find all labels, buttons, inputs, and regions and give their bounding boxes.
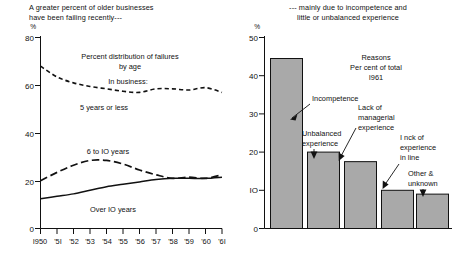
left-xtick-53: '53 [85, 237, 95, 246]
right-ytick-40: 40 [249, 72, 258, 81]
bar-annotation-managerial-1: Lack of [358, 103, 383, 112]
left-chart-panel: A greater percent of older businesses ha… [0, 0, 230, 257]
left-ytick-60: 60 [25, 82, 34, 91]
bar-annotation-incompetence: Incompetence [312, 94, 358, 103]
left-ytick-80: 80 [25, 34, 34, 43]
bar-2 [345, 162, 377, 229]
right-inner-title-line2: Per cent of total [350, 63, 402, 72]
bar-annotation-inline-1: I nck of [400, 133, 425, 142]
left-x-ticks [41, 229, 223, 235]
left-xtick-57: '57 [151, 237, 161, 246]
left-percent-symbol: % [30, 23, 36, 30]
left-xtick-52: '52 [69, 237, 79, 246]
left-line-chart-svg: % 80 60 40 20 0 I950 [0, 0, 230, 257]
series-over-10-years [41, 177, 223, 198]
bar-1 [308, 152, 340, 228]
left-xtick-60: '60 [201, 237, 211, 246]
right-chart-panel: --- mainly due to incompetence and littl… [224, 0, 454, 257]
right-inner-title-line3: I961 [369, 73, 383, 82]
left-ytick-0: 0 [30, 225, 35, 234]
bar-annotation-other-2: unknown [408, 179, 438, 188]
left-xtick-labels: I950 '5I '52 '53 '54 '55 '56 '57 '58 '59… [33, 237, 226, 246]
right-inner-title-line1: Reasons [361, 53, 390, 62]
series-6-to-10-years [41, 160, 223, 181]
right-ytick-30: 30 [249, 110, 258, 119]
right-ytick-0: 0 [254, 225, 259, 234]
bar-annotation-unbalanced-2: experience [302, 139, 338, 148]
right-chart-caption: --- mainly due to incompetence and littl… [242, 3, 454, 22]
left-xtick-58: '58 [168, 237, 178, 246]
bar-annotation-other-1: Other & [408, 169, 434, 178]
left-ytick-40: 40 [25, 130, 34, 139]
left-inner-subtitle: In business: [108, 77, 147, 86]
left-xtick-56: '56 [135, 237, 145, 246]
bar-annotation-inline-3: in line [400, 153, 419, 162]
label-over-10-years: Over IO years [90, 205, 136, 214]
right-bar-chart-svg: % 50 40 30 20 IO 0 Reasons Per cent of t… [224, 0, 454, 257]
bar-annotation-managerial-3: experience [358, 123, 394, 132]
anno-arrow-inline [383, 181, 389, 189]
left-xtick-55: '55 [118, 237, 128, 246]
bar-4 [417, 194, 449, 228]
bar-annotation-unbalanced-1: Unbalanced [302, 129, 341, 138]
bar-annotation-inline-2: experience [400, 143, 436, 152]
left-xtick-1950: I950 [33, 237, 47, 246]
right-percent-symbol: % [254, 23, 260, 30]
figure-root: A greater percent of older businesses ha… [0, 0, 454, 257]
anno-leader-inline [384, 164, 399, 186]
right-ytick-20: 20 [249, 148, 258, 157]
left-inner-title-line1: Percent distribution of failures [81, 52, 179, 61]
bar-annotation-managerial-2: managerial [358, 113, 395, 122]
left-ytick-20: 20 [25, 178, 34, 187]
left-chart-caption: A greater percent of older businesses ha… [29, 3, 154, 22]
left-y-ticks [35, 38, 41, 229]
anno-leader-managerial [340, 128, 356, 158]
left-xtick-59: '59 [184, 237, 194, 246]
left-inner-title-line2: by age [119, 62, 141, 71]
bar-0 [271, 59, 303, 229]
label-5-years-or-less: 5 years or less [80, 103, 128, 112]
bar-3 [382, 190, 414, 228]
right-y-ticks [259, 38, 265, 229]
right-ytick-50: 50 [249, 34, 258, 43]
right-ytick-10: IO [250, 186, 258, 195]
anno-arrow-managerial [339, 152, 345, 161]
label-6-to-10-years: 6 to IO years [87, 147, 130, 156]
left-xtick-51: '5I [54, 237, 62, 246]
left-xtick-54: '54 [102, 237, 112, 246]
